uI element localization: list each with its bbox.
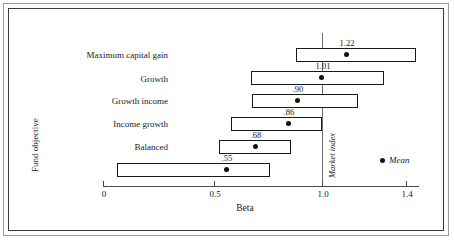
x-tick-label-0: 0 <box>84 189 124 199</box>
x-tick-label-1-4: 1.4 <box>387 189 427 199</box>
value-label-income: .55 <box>210 153 244 163</box>
category-label-maximum-capital-gain: Maximum capital gain <box>38 50 168 61</box>
category-label-growth-income: Growth income <box>38 96 168 107</box>
x-tick-0-5 <box>214 181 215 186</box>
mean-dot-growth-income <box>295 98 300 103</box>
market-index-label: Market index <box>327 133 337 178</box>
x-tick-label-0-5: 0.5 <box>195 189 235 199</box>
category-label-growth: Growth <box>38 74 168 85</box>
x-axis-line <box>103 186 419 187</box>
legend: Mean <box>380 155 410 165</box>
value-label-income-growth: .86 <box>272 107 306 117</box>
mean-dot-growth <box>319 75 324 80</box>
x-tick-0 <box>103 181 104 186</box>
bar-growth-income <box>252 94 358 108</box>
category-label-income-growth: Income growth <box>38 119 168 130</box>
legend-mean-label: Mean <box>389 155 410 165</box>
x-axis-title: Beta <box>205 203 285 213</box>
bar-income-growth <box>231 117 322 131</box>
mean-dot-income-growth <box>286 121 291 126</box>
x-tick-1-4 <box>406 181 407 186</box>
category-label-balanced: Balanced <box>38 142 168 153</box>
value-label-maximum-capital-gain: 1.22 <box>330 38 364 48</box>
mean-dot-balanced <box>253 144 258 149</box>
bar-income <box>117 163 270 177</box>
x-tick-1-0 <box>322 181 323 186</box>
bar-growth <box>251 71 384 85</box>
mean-dot-maximum-capital-gain <box>344 52 349 57</box>
value-label-growth-income: .90 <box>281 84 315 94</box>
x-tick-label-1-0: 1.0 <box>303 189 343 199</box>
legend-mean-dot-icon <box>380 158 385 163</box>
value-label-balanced: .68 <box>239 130 273 140</box>
mean-dot-income <box>224 167 229 172</box>
bar-maximum-capital-gain <box>296 48 416 62</box>
beta-range-chart: Fund objective Maximum capital gain Grow… <box>0 0 454 241</box>
value-label-growth: 1.01 <box>306 61 340 71</box>
